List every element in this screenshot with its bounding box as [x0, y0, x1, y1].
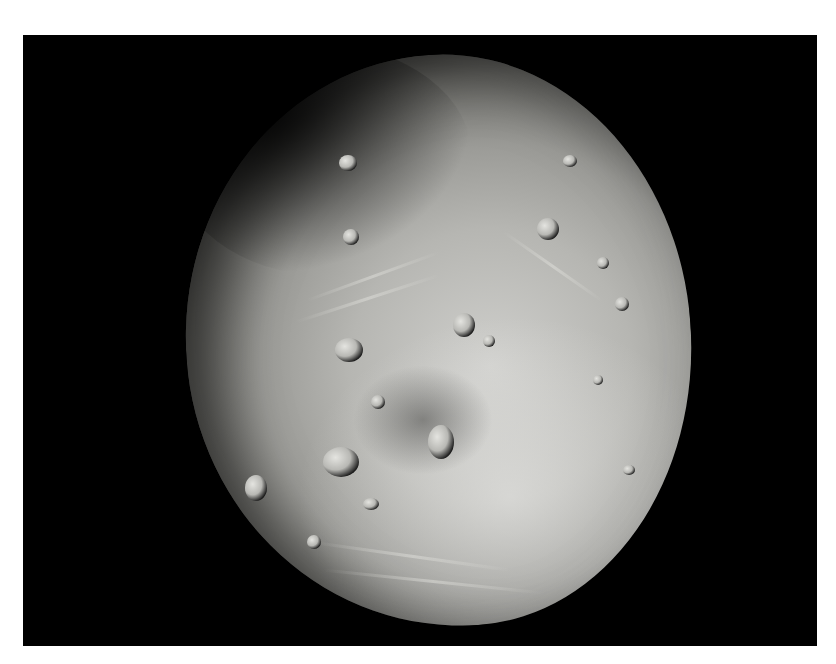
crater — [623, 465, 635, 475]
dark-basin — [353, 365, 493, 475]
crater — [428, 425, 454, 459]
crater — [245, 475, 267, 501]
crater — [483, 335, 495, 347]
crater — [597, 257, 609, 269]
crater — [615, 297, 629, 311]
crater — [339, 155, 357, 171]
crater — [343, 229, 359, 245]
terminator-shadow — [173, 45, 473, 275]
crater — [363, 498, 379, 510]
crater — [537, 218, 559, 240]
crater — [453, 313, 475, 337]
crater — [371, 395, 385, 409]
crater — [593, 375, 603, 385]
space-background — [23, 35, 817, 646]
crater — [335, 338, 363, 362]
crater — [323, 447, 359, 477]
crater — [563, 155, 577, 167]
